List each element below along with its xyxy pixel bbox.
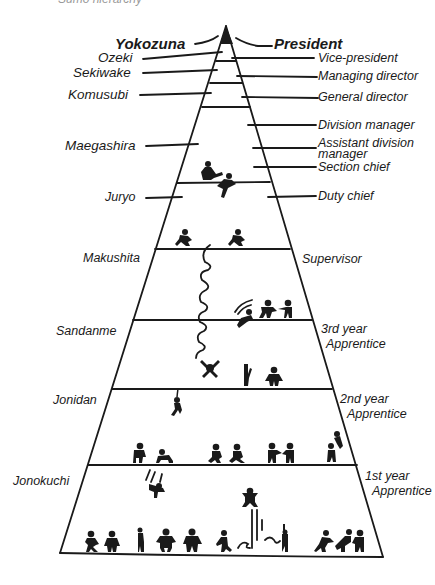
label-line: 2nd year <box>340 393 407 406</box>
label-line: Apprentice <box>326 338 386 351</box>
figure-standing <box>265 367 283 386</box>
rank-sandanme: Sandanme <box>56 325 116 338</box>
figure-running <box>229 444 245 463</box>
rank-jonidan: Jonidan <box>53 394 97 407</box>
position-3rd-year-apprentice: 3rd year Apprentice <box>321 323 386 351</box>
figure-squatting <box>156 529 176 553</box>
figure-walking <box>216 530 232 552</box>
position-section-chief: Section chief <box>318 161 390 174</box>
position-assistant-division-manager: Assistant division manager <box>318 137 414 161</box>
pyramid-base <box>60 553 383 557</box>
splash-line <box>265 538 280 543</box>
figure-pushing <box>278 300 292 318</box>
figure-standing-waving <box>282 524 288 552</box>
rank-makushita: Makushita <box>83 252 140 265</box>
figure-tumbling <box>200 360 220 378</box>
motion-line <box>160 474 162 482</box>
label-line: Apprentice <box>372 485 432 498</box>
figure-falling <box>201 161 223 180</box>
pyramid-right-edge <box>226 26 383 557</box>
leader-sekiwake <box>143 70 217 73</box>
leader-yokozuna <box>195 36 218 44</box>
leader-duty-chief <box>268 196 316 197</box>
figure-standing <box>282 443 294 463</box>
leader-managing-director <box>237 76 317 77</box>
position-president: President <box>274 37 342 50</box>
pyramid-left-edge <box>60 26 226 553</box>
figure-running <box>175 229 192 246</box>
figure-climbing <box>327 431 343 462</box>
position-vice-president: Vice-president <box>318 52 398 65</box>
figure-standing <box>244 364 252 386</box>
figure-running <box>208 444 222 463</box>
figure-pushing <box>335 529 352 552</box>
apex-cap <box>220 26 233 44</box>
label-line: 3rd year <box>321 323 386 336</box>
figure-standing <box>104 531 120 552</box>
position-managing-director: Managing director <box>318 70 418 83</box>
position-general-director: General director <box>318 91 408 104</box>
figure-jumping <box>242 488 258 507</box>
figure-standing <box>352 530 364 552</box>
position-division-manager: Division manager <box>318 119 415 132</box>
spring-coil <box>196 245 210 358</box>
figure-climbing <box>171 388 182 416</box>
figure-pushing <box>259 300 277 318</box>
label-line: Apprentice <box>347 408 407 421</box>
position-2nd-year-apprentice: 2nd year Apprentice <box>340 393 407 421</box>
rank-jonokuchi: Jonokuchi <box>13 475 69 488</box>
figure-running <box>228 229 245 246</box>
rank-sekiwake: Sekiwake <box>73 66 131 79</box>
leader-ozeki <box>143 52 222 59</box>
figure-falling <box>149 483 165 498</box>
motion-line <box>146 470 150 480</box>
leader-general-director <box>242 97 318 98</box>
motion-line <box>151 472 155 482</box>
figure-kicking <box>85 531 99 552</box>
figure-crawling <box>156 449 173 463</box>
figure-falling <box>217 173 236 198</box>
rank-maegashira: Maegashira <box>65 139 136 152</box>
figure-standing <box>183 529 202 553</box>
rank-ozeki: Ozeki <box>98 51 133 64</box>
figure-crouching <box>133 443 146 463</box>
leader-komusubi <box>140 93 211 95</box>
position-1st-year-apprentice: 1st year Apprentice <box>365 470 432 498</box>
position-supervisor: Supervisor <box>302 253 362 266</box>
rank-komusubi: Komusubi <box>68 88 128 101</box>
leader-president <box>236 38 272 46</box>
figure-pushing <box>268 443 282 463</box>
leader-maegashira <box>146 144 198 146</box>
figure-running <box>314 530 334 552</box>
figure-standing <box>138 528 145 553</box>
label-line: 1st year <box>365 470 432 483</box>
figures <box>85 161 364 552</box>
position-duty-chief: Duty chief <box>318 190 374 203</box>
leader-juryo <box>146 197 182 198</box>
splash-line <box>238 543 250 548</box>
rank-juryo: Juryo <box>105 191 136 204</box>
rank-yokozuna: Yokozuna <box>115 37 185 50</box>
